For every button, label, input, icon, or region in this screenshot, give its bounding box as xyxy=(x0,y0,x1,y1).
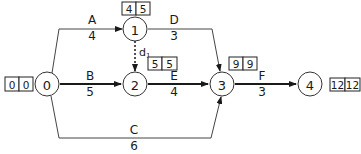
node-1: 1 xyxy=(123,17,147,41)
edge-f: F 3 xyxy=(235,69,296,99)
node-3-latest: 9 xyxy=(247,58,254,70)
edge-a: A 4 xyxy=(52,13,122,73)
edge-b-duration: 5 xyxy=(86,85,94,99)
edge-c-duration: 6 xyxy=(130,139,138,153)
node-4: 4 xyxy=(298,72,322,96)
time-box-node-0: 0 0 xyxy=(5,77,33,91)
time-box-node-3: 9 9 xyxy=(229,57,257,70)
node-3-earliest: 9 xyxy=(233,58,240,70)
node-4-latest: 12 xyxy=(346,79,359,91)
node-1-earliest: 4 xyxy=(126,3,133,15)
node-0-latest: 0 xyxy=(23,79,30,91)
node-4-label: 4 xyxy=(306,78,314,93)
edge-e-duration: 4 xyxy=(170,85,178,99)
node-2-latest: 5 xyxy=(166,58,173,70)
node-3-label: 3 xyxy=(218,78,226,93)
edge-e-name: E xyxy=(170,69,178,83)
edge-e: E 4 xyxy=(148,69,208,99)
node-2: 2 xyxy=(123,72,147,96)
edge-d-name: D xyxy=(169,13,178,27)
node-0-earliest: 0 xyxy=(9,79,16,91)
network-diagram: A 4 D 3 B 5 E 4 F 3 C 6 d1 0 xyxy=(0,0,361,154)
node-1-latest: 5 xyxy=(140,3,147,15)
node-0-label: 0 xyxy=(43,78,51,93)
edge-a-duration: 4 xyxy=(88,29,96,43)
edge-d-duration: 3 xyxy=(170,29,178,43)
edge-b: B 5 xyxy=(60,69,121,99)
node-4-earliest: 12 xyxy=(331,79,344,91)
edge-f-duration: 3 xyxy=(258,85,266,99)
edge-f-name: F xyxy=(259,69,266,83)
time-box-node-2: 5 5 xyxy=(148,57,177,70)
node-2-earliest: 5 xyxy=(152,58,159,70)
edge-a-name: A xyxy=(88,13,97,27)
node-2-label: 2 xyxy=(131,78,139,93)
time-box-node-1: 4 5 xyxy=(122,2,150,15)
edge-c: C 6 xyxy=(51,96,221,153)
edge-b-name: B xyxy=(86,69,94,83)
node-0: 0 xyxy=(35,72,59,96)
time-box-node-4: 12 12 xyxy=(330,78,360,91)
node-3: 3 xyxy=(210,72,234,96)
edge-c-name: C xyxy=(130,123,138,137)
node-1-label: 1 xyxy=(131,23,139,38)
